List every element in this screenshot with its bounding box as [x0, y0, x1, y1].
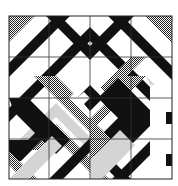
black-shape — [166, 112, 172, 124]
tile-pattern — [0, 0, 178, 186]
black-shape — [166, 154, 172, 166]
